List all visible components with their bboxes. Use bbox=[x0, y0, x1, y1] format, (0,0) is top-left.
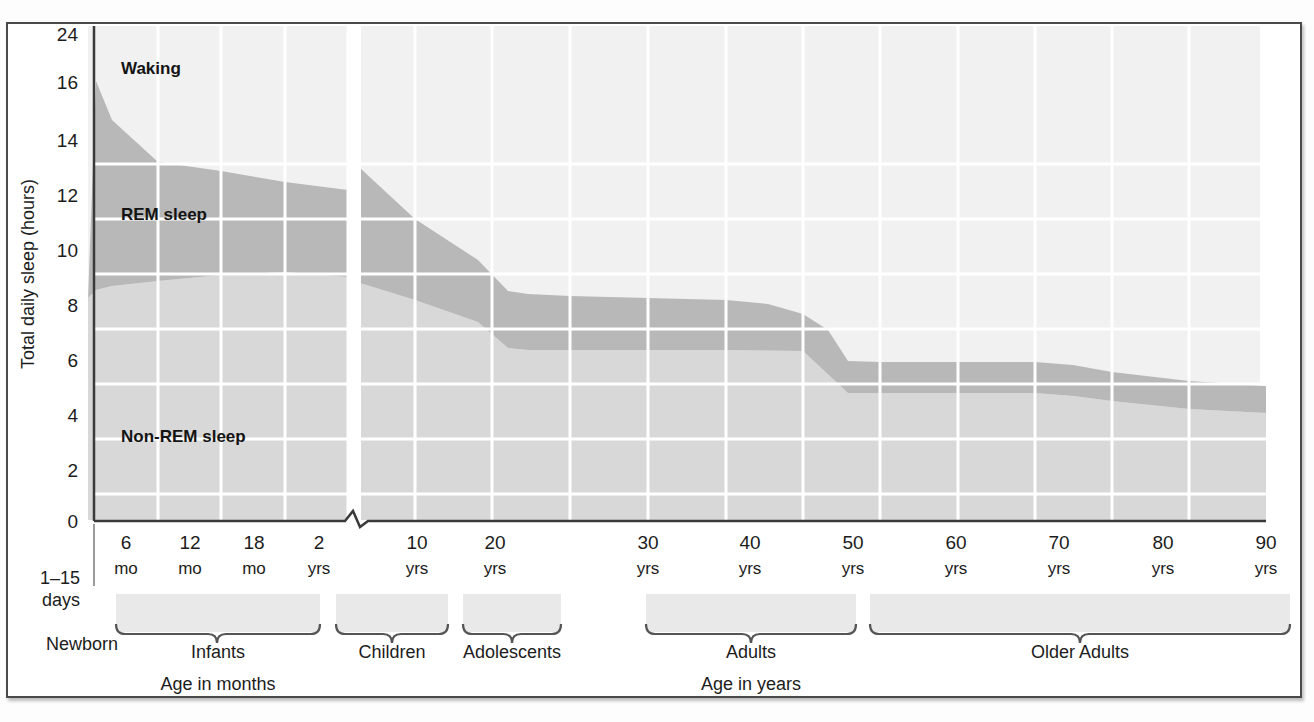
infants-bar bbox=[116, 594, 320, 632]
older-adults-bar bbox=[870, 594, 1290, 632]
y-tick-14: 14 bbox=[57, 130, 79, 151]
x-tick-70yrs-unit: yrs bbox=[1048, 559, 1071, 578]
group-label-adolescents: Adolescents bbox=[463, 642, 561, 662]
x-axis-break-gap bbox=[349, 24, 361, 522]
x-tick-10yrs-value: 10 bbox=[406, 532, 427, 553]
newborn-range-line2: days bbox=[42, 590, 80, 610]
y-tick-0: 0 bbox=[67, 511, 78, 532]
x-tick-60yrs-value: 60 bbox=[945, 532, 966, 553]
group-label-infants: Infants bbox=[191, 642, 245, 662]
x-tick-18mo-value: 18 bbox=[243, 532, 264, 553]
x-tick-6mo-value: 6 bbox=[121, 532, 132, 553]
y-tick-10: 10 bbox=[57, 240, 78, 261]
y-tick-8: 8 bbox=[67, 295, 78, 316]
rem-band-label: REM sleep bbox=[121, 205, 207, 224]
x-axis-title-left: Age in months bbox=[160, 674, 275, 694]
x-tick-90yrs-value: 90 bbox=[1255, 532, 1276, 553]
x-axis-title-right: Age in years bbox=[701, 674, 801, 694]
sleep-across-lifespan-chart: 24 16 14 12 10 8 6 4 2 0 Total daily sle… bbox=[8, 24, 1300, 696]
x-tick-20yrs-value: 20 bbox=[484, 532, 505, 553]
x-tick-70yrs-value: 70 bbox=[1048, 532, 1069, 553]
adolescents-bar bbox=[463, 594, 561, 632]
group-label-children: Children bbox=[358, 642, 425, 662]
x-tick-12mo-value: 12 bbox=[179, 532, 200, 553]
waking-band-label: Waking bbox=[121, 59, 181, 78]
y-axis-title: Total daily sleep (hours) bbox=[18, 179, 38, 369]
age-group-bars bbox=[116, 594, 1290, 632]
x-tick-50yrs-unit: yrs bbox=[842, 559, 865, 578]
x-tick-18mo-unit: mo bbox=[242, 559, 266, 578]
group-label-older-adults: Older Adults bbox=[1031, 642, 1129, 662]
nonrem-area-left bbox=[88, 272, 348, 520]
y-tick-2: 2 bbox=[67, 460, 78, 481]
y-tick-4: 4 bbox=[67, 405, 78, 426]
y-axis-tick-labels: 24 16 14 12 10 8 6 4 2 0 bbox=[57, 24, 79, 532]
x-tick-90yrs-unit: yrs bbox=[1255, 559, 1278, 578]
newborn-range-line1: 1–15 bbox=[40, 568, 80, 588]
y-tick-16: 16 bbox=[57, 72, 78, 93]
x-tick-80yrs-value: 80 bbox=[1152, 532, 1173, 553]
figure-page: 24 16 14 12 10 8 6 4 2 0 Total daily sle… bbox=[0, 0, 1314, 722]
group-label-newborn: Newborn bbox=[46, 634, 118, 654]
children-bar bbox=[336, 594, 448, 632]
x-tick-12mo-unit: mo bbox=[178, 559, 202, 578]
x-axis-tick-labels: 6 mo 12 mo 18 mo 2 yrs 10 yrs 20 yrs 30 … bbox=[114, 532, 1277, 578]
x-tick-10yrs-unit: yrs bbox=[406, 559, 429, 578]
adults-bar bbox=[646, 594, 856, 632]
nonrem-band-label: Non-REM sleep bbox=[121, 427, 246, 446]
group-label-adults: Adults bbox=[726, 642, 776, 662]
x-tick-2yrs-value: 2 bbox=[314, 532, 325, 553]
figure-frame: 24 16 14 12 10 8 6 4 2 0 Total daily sle… bbox=[6, 22, 1302, 698]
x-tick-80yrs-unit: yrs bbox=[1152, 559, 1175, 578]
x-tick-40yrs-value: 40 bbox=[739, 532, 760, 553]
x-tick-20yrs-unit: yrs bbox=[484, 559, 507, 578]
x-tick-60yrs-unit: yrs bbox=[945, 559, 968, 578]
y-tick-12: 12 bbox=[57, 185, 78, 206]
x-tick-2yrs-unit: yrs bbox=[308, 559, 331, 578]
x-tick-6mo-unit: mo bbox=[114, 559, 138, 578]
y-tick-6: 6 bbox=[67, 350, 78, 371]
x-tick-50yrs-value: 50 bbox=[842, 532, 863, 553]
x-tick-30yrs-unit: yrs bbox=[637, 559, 660, 578]
x-tick-40yrs-unit: yrs bbox=[739, 559, 762, 578]
y-tick-24: 24 bbox=[57, 24, 79, 45]
x-tick-30yrs-value: 30 bbox=[637, 532, 658, 553]
